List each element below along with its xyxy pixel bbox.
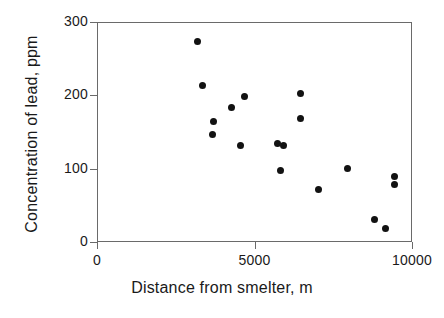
data-point	[237, 142, 244, 149]
data-point	[210, 118, 217, 125]
y-axis-tick-group: 0100200300	[0, 0, 97, 318]
y-axis-tick	[90, 169, 97, 170]
x-axis-title: Distance from smelter, m	[0, 279, 444, 297]
data-point	[199, 82, 206, 89]
x-axis-tick	[412, 242, 413, 249]
y-axis-title: Concentration of lead, ppm	[23, 14, 41, 254]
data-point	[344, 165, 351, 172]
y-axis-tick	[90, 242, 97, 243]
data-point	[228, 104, 235, 111]
data-point	[382, 225, 389, 232]
data-point	[297, 115, 304, 122]
data-point	[391, 181, 398, 188]
y-axis-tick-label: 200	[44, 86, 88, 102]
x-axis-tick	[255, 242, 256, 249]
x-axis-tick-label: 10000	[392, 252, 432, 268]
y-axis-tick-label: 0	[44, 233, 88, 249]
data-point	[297, 90, 304, 97]
data-point-layer	[97, 22, 412, 242]
y-axis-tick-label: 100	[44, 160, 88, 176]
data-point	[371, 216, 378, 223]
x-axis-tick-label: 5000	[239, 252, 271, 268]
data-point	[241, 93, 248, 100]
data-point	[194, 38, 201, 45]
data-point	[277, 167, 284, 174]
y-axis-tick-label: 300	[44, 13, 88, 29]
data-point	[315, 186, 322, 193]
data-point	[209, 131, 216, 138]
x-axis-tick	[97, 242, 98, 249]
x-axis-tick-label: 0	[93, 252, 101, 268]
y-axis-tick	[90, 95, 97, 96]
scatter-plot-figure: 0100200300 0500010000 Distance from smel…	[0, 0, 444, 318]
data-point	[280, 142, 287, 149]
data-point	[391, 173, 398, 180]
y-axis-tick	[90, 22, 97, 23]
